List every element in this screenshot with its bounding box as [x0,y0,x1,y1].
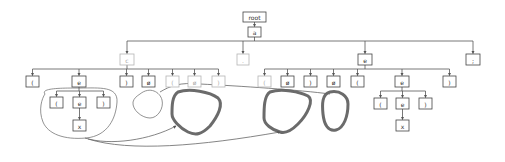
node-label: ( [356,79,358,86]
node-label: ( [171,79,173,86]
tree-node-e_1: ( [258,76,271,87]
node-label: ø [286,79,290,86]
tree-node-c_5: ( [166,76,179,87]
link-to-thick-2 [88,132,280,146]
tree-node-l_3: ) [97,97,110,108]
node-label: e [77,79,81,86]
node-label: ) [309,79,311,86]
node-label: ) [424,101,426,108]
node-label: root [248,14,261,21]
node-label: x [401,123,405,130]
tree-node-e_5: ( [351,76,364,87]
tree-node-c_3: ) [120,76,133,87]
node-label: ) [448,79,450,86]
node-label: ) [125,79,127,86]
tree-node-c_1: ( [26,76,39,87]
node-label: x [78,123,82,130]
tree-node-dot: . [237,54,249,65]
node-label: ( [263,79,265,86]
node-label: c [125,57,128,64]
node-label: ø [193,79,197,86]
diagram-canvas: rootac.e;(e)ø(ø)(ø)ø(e)(e)x(e)x [0,0,505,162]
node-label: ( [31,79,33,86]
node-label: ø [147,79,151,86]
tree-node-r_4: x [396,120,409,131]
tree-node-c_6: ø [188,76,201,87]
tree-node-semi: ; [466,54,480,65]
tree-node-a: a [248,27,261,37]
tree-node-e_4: ø [327,76,340,87]
tree-node-c_2: e [72,76,86,87]
node-label: e [78,100,82,107]
tree-node-l_4: x [73,120,86,131]
tree-node-l_2: e [73,97,86,108]
node-label: . [242,57,244,64]
group-thick-2 [264,90,310,132]
group-small-round [133,90,162,118]
tree-node-e_3: ) [304,76,317,87]
tree-node-e_2: ø [281,76,294,87]
tree-node-root: root [243,12,266,22]
node-label: ) [217,79,219,86]
group-thick-1 [172,90,220,134]
node-label: ; [472,57,474,64]
tree-node-r_1: ( [374,98,387,109]
tree-node-c_4: ø [142,76,155,87]
node-label: ) [102,100,104,107]
tree-node-l_1: ( [50,97,63,108]
parse-tree-diagram: rootac.e;(e)ø(ø)(ø)ø(e)(e)x(e)x [0,0,505,162]
tree-node-e1: e [358,54,372,65]
node-label: e [363,57,367,64]
tree-node-e_7: ) [443,76,456,87]
tree-node-r_3: ) [419,98,432,109]
link-to-thick-1 [85,126,176,142]
tree-nodes: rootac.e;(e)ø(ø)(ø)ø(e)(e)x(e)x [26,12,480,131]
node-label: ( [379,101,381,108]
node-label: ø [332,79,336,86]
node-label: a [253,29,257,36]
node-label: ( [55,100,57,107]
tree-node-c_7: ) [212,76,225,87]
node-label: e [400,79,404,86]
node-label: e [401,101,405,108]
tree-node-r_2: e [396,98,409,109]
tree-node-c: c [120,54,134,65]
tree-node-e_6: e [395,76,409,87]
group-outlines [41,88,348,138]
group-thick-3 [323,92,348,131]
